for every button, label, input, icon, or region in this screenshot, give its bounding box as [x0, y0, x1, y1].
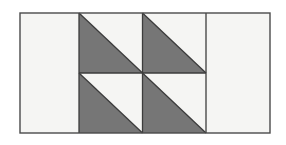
cell-bottom-left	[79, 73, 143, 133]
pinwheel-pattern-figure: Pinwheel quilt block pattern Rectangular…	[0, 0, 286, 145]
cell-top-right	[143, 13, 207, 73]
right-panel	[206, 13, 270, 133]
cell-bottom-right	[143, 73, 207, 133]
figure-canvas: Pinwheel quilt block pattern Rectangular…	[0, 0, 286, 145]
left-panel	[20, 13, 79, 133]
cell-top-left	[79, 13, 143, 73]
